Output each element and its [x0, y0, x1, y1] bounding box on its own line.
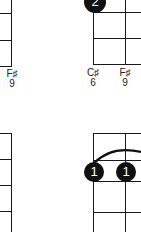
finger-dot: 1: [84, 162, 104, 182]
finger-dot: 1: [116, 162, 136, 182]
barre-arc-icon: [0, 0, 141, 232]
